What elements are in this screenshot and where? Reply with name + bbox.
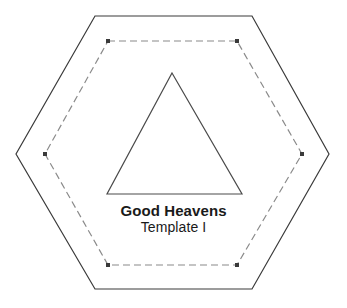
template-sheet: Good Heavens Template I [0, 0, 347, 308]
corner-marker-bottom-right [235, 263, 239, 267]
corner-marker-top-left [106, 39, 110, 43]
corner-marker-bottom-left [106, 263, 110, 267]
corner-marker-top-right [235, 39, 239, 43]
corner-marker-right [300, 152, 304, 156]
corner-marker-left [43, 152, 47, 156]
template-drawing [0, 0, 347, 308]
drawing-background [0, 0, 347, 308]
